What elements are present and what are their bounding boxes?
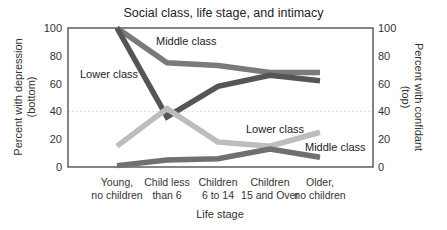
x-axis-label: Life stage [196,208,244,220]
series-label: Lower class [80,68,139,80]
x-tick-label: Children [198,176,237,188]
x-tick-label: no children [91,189,143,201]
line-chart: 002020404060608080100100Young,no childre… [0,0,447,230]
x-tick-label: Young, [101,176,133,188]
series-label: Lower class [246,123,305,135]
y-tick-right: 0 [378,161,384,173]
x-tick-label: 6 to 14 [202,189,234,201]
y-axis-label-left: Percent with depression(bottom) [12,38,37,155]
x-tick-label: 15 and Over [241,189,299,201]
x-tick-label: Child less [144,176,190,188]
x-tick-label: than 6 [152,189,181,201]
y-tick-right: 20 [378,133,390,145]
y-tick-left: 60 [50,78,62,90]
series-label: Middle class [156,35,217,47]
y-tick-right: 40 [378,105,390,117]
series-line [117,28,320,72]
y-tick-left: 100 [44,22,62,34]
series-label: Middle class [305,141,366,153]
y-tick-left: 20 [50,133,62,145]
y-tick-right: 100 [378,22,396,34]
y-tick-left: 40 [50,105,62,117]
x-tick-label: Children [250,176,289,188]
y-tick-left: 80 [50,50,62,62]
y-tick-right: 60 [378,78,390,90]
y-tick-left: 0 [56,161,62,173]
x-tick-label: no children [294,189,346,201]
series-line [117,149,320,166]
y-tick-right: 80 [378,50,390,62]
y-axis-label-right: Percent with confidant(top) [400,43,425,151]
x-tick-label: Older, [306,176,334,188]
